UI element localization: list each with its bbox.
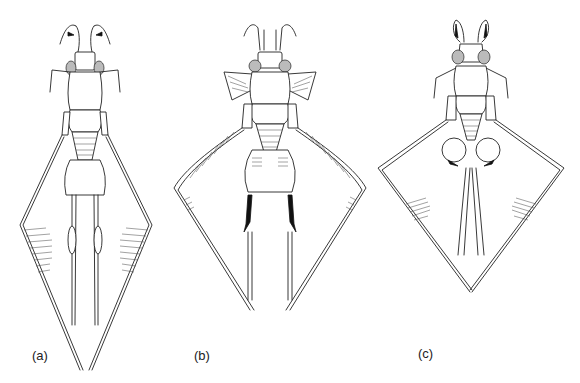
panel-label-b: (b)	[194, 348, 210, 363]
panel-label-c: (c)	[418, 346, 433, 361]
figure: (a)	[0, 0, 580, 383]
panel-label-a: (a)	[32, 348, 48, 363]
specimen-b-drawing	[160, 0, 380, 383]
panel-b: (b)	[160, 0, 380, 383]
panel-c: (c)	[370, 0, 580, 383]
specimen-c-drawing	[370, 0, 580, 383]
